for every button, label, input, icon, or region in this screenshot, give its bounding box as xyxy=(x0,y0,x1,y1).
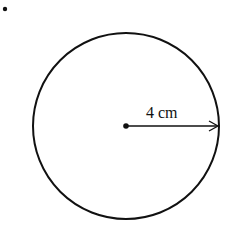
figure-number-dot xyxy=(3,7,7,11)
circle-diagram: 4 cm xyxy=(0,0,237,230)
radius-label: 4 cm xyxy=(146,104,178,121)
